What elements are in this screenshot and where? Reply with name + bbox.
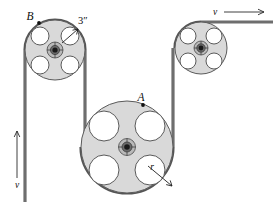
pulley-right-hole-lower-right bbox=[206, 53, 222, 69]
pulley-b-rim-point bbox=[37, 21, 41, 25]
pulley-a-rim-point bbox=[141, 103, 145, 107]
label-velocity-right: v bbox=[213, 7, 218, 17]
pulley-a-hub-core bbox=[124, 144, 130, 150]
label-velocity-left: v bbox=[15, 180, 20, 190]
pulley-b-hole-upper-left bbox=[31, 27, 49, 45]
label-radius-b-dimension: 3″ bbox=[78, 15, 88, 26]
velocity-arrow-right-group bbox=[224, 9, 264, 15]
pulley-a-hole-upper-right bbox=[135, 111, 165, 141]
pulley-b-hole-lower-left bbox=[31, 56, 49, 74]
pulley-b-hole-lower-right bbox=[61, 56, 79, 74]
pulley-b-hub-core bbox=[52, 47, 57, 52]
pulley-right-hub-core bbox=[199, 46, 204, 51]
belt-pulley-diagram-canvas: B 3″ A r v v bbox=[0, 0, 273, 202]
pulley-right-hole-lower-left bbox=[180, 53, 196, 69]
pulley-b-group bbox=[25, 20, 85, 80]
pulley-right-hole-upper-right bbox=[206, 28, 222, 44]
pulley-a-hole-upper-left bbox=[89, 111, 119, 141]
label-radius-a-symbol: r bbox=[150, 162, 154, 172]
label-pulley-a: A bbox=[136, 91, 145, 103]
pulley-a-group bbox=[81, 101, 173, 193]
pulley-right-group bbox=[175, 22, 227, 74]
velocity-arrow-left-group bbox=[14, 131, 20, 178]
pulley-diagram-figure: B 3″ A r v v bbox=[0, 0, 273, 202]
pulley-right-hole-upper-left bbox=[180, 28, 196, 44]
pulley-a-hole-lower-left bbox=[89, 155, 119, 185]
label-pulley-b: B bbox=[26, 10, 33, 22]
